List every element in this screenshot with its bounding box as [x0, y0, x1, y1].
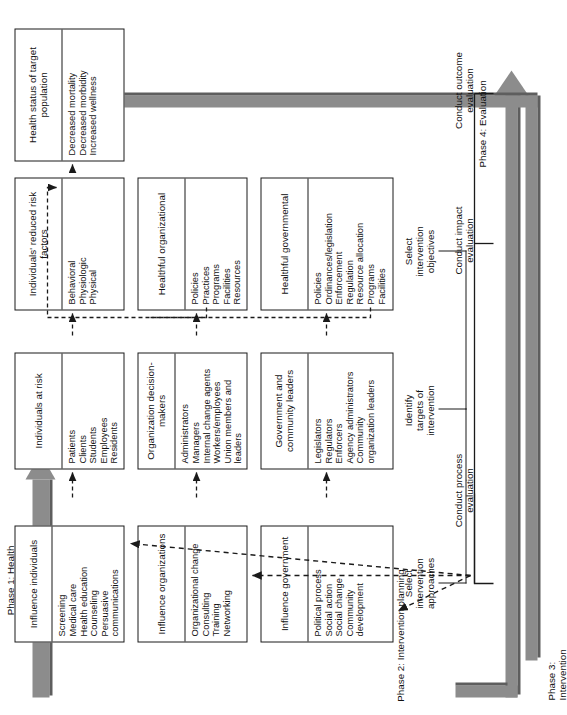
phase3-label: Phase 3: Intervention: [545, 590, 567, 700]
dashed-organizational-to-riskfactors: [150, 307, 206, 317]
dashed-governmental-to-riskfactors: [47, 187, 370, 317]
dashed-intervention-to-individuals: [130, 543, 470, 575]
dashed-intervention-to-government: [398, 575, 470, 610]
bracket-process-evaluation: [474, 493, 493, 583]
